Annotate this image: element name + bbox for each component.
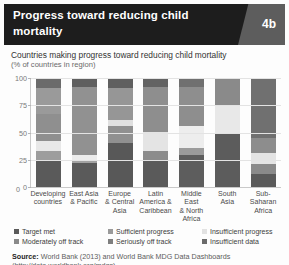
figure-header: Progress toward reducing child mortality… [4,4,285,45]
gridline [31,133,281,134]
legend-item[interactable]: Target met [14,227,106,237]
y-axis-tick-mark [28,160,31,161]
chart-legend: Target metSufficient progressInsufficien… [14,227,285,246]
legend-item[interactable]: Sufficient progress [108,227,200,237]
bar-segment[interactable] [143,87,168,133]
legend-label: Moderately off track [22,238,83,245]
y-axis-tick-label: 50 [19,128,27,137]
chart-subtitle: Countries making progress toward reducin… [11,50,285,70]
figure-panel: Progress toward reducing child mortality… [0,0,289,265]
y-axis-tick-mark [28,133,31,134]
bar-segment[interactable] [72,78,97,87]
bar-segment[interactable] [251,164,276,174]
legend-swatch [202,239,207,244]
bar-segment[interactable] [143,78,168,87]
x-axis-label: Europe& CentralAsia [102,190,138,224]
bar-segment[interactable] [179,148,204,156]
figure-number-badge: 4b [262,17,276,31]
y-axis-tick-mark [28,78,31,79]
legend-item[interactable]: Moderately off track [14,237,106,247]
bar-segment[interactable] [251,174,276,187]
legend-label: Sufficient progress [116,228,174,235]
chart-subtitle-units: (% of countries in region) [11,60,285,70]
legend-swatch [108,239,113,244]
bar-segment[interactable] [72,87,97,156]
source-text: World Bank (2013) and World Bank MDG Dat… [39,252,231,261]
bar-segment[interactable] [36,160,61,187]
x-axis-label: SouthAsia [209,190,245,224]
bar-segment[interactable] [36,78,61,88]
legend-item[interactable]: Insufficient progress [202,227,285,237]
bar-segment[interactable] [143,132,168,151]
bar-segment[interactable] [143,161,168,187]
x-axis-label: Sub-SaharanAfrica [245,190,281,224]
legend-label: Target met [22,228,55,235]
x-axis-label: East Asia& Pacific [66,190,102,224]
bar-segment[interactable] [36,141,61,151]
y-axis-tick-label: 0 [23,183,27,192]
y-axis-tick-label: 75 [19,101,27,110]
source-label: Source: [12,252,39,261]
bar-segment[interactable] [179,126,204,148]
y-axis-tick-label: 25 [19,155,27,164]
chart-plot-wrapper: 0255075100 DevelopingcountriesEast Asia&… [4,72,285,194]
bar-segment[interactable] [108,78,133,88]
y-axis-tick-mark [28,105,31,106]
x-axis-label: Middle East& NorthAfrica [173,190,209,224]
x-axis-label: Developingcountries [30,190,66,224]
y-axis-tick-mark [28,187,31,188]
bar-segment[interactable] [215,78,240,105]
legend-label: Seriously off track [116,238,172,245]
bar-segment[interactable] [36,151,61,160]
bar-segment[interactable] [179,87,204,126]
legend-label: Insufficient progress [210,228,273,235]
legend-item[interactable]: Insufficient data [202,237,285,247]
legend-swatch [14,229,19,234]
bar-segment[interactable] [215,105,240,132]
legend-label: Insufficient data [210,238,259,245]
bar-segment[interactable] [251,138,276,153]
bar-segment[interactable] [108,126,133,143]
legend-swatch [14,239,19,244]
x-axis-labels: DevelopingcountriesEast Asia& PacificEur… [30,190,281,224]
legend-swatch [202,229,207,234]
bar-segment[interactable] [108,88,133,121]
gridline [31,78,281,79]
bar-segment[interactable] [72,163,97,187]
bar-segment[interactable] [251,153,276,164]
legend-item[interactable]: Seriously off track [108,237,200,247]
source-url: (http://data.worldbank.org/mdgs). [12,261,117,265]
chart-plot-area: 0255075100 [30,78,281,188]
bar-segment[interactable] [251,78,276,138]
page-title: Progress toward reducing child mortality [13,8,228,39]
bar-segment[interactable] [108,143,133,187]
gridline [31,160,281,161]
source-note: Source: World Bank (2013) and World Bank… [12,252,284,265]
gridline [31,105,281,106]
bar-segment[interactable] [36,88,61,114]
y-axis-zero-label: 0 [16,185,20,194]
y-axis-tick-label: 100 [15,74,27,83]
bar-segment[interactable] [36,114,61,141]
chart-subtitle-main: Countries making progress toward reducin… [11,50,285,60]
legend-swatch [108,229,113,234]
bar-segment[interactable] [179,78,204,87]
x-axis-label: LatinAmerica &Caribbean [138,190,174,224]
